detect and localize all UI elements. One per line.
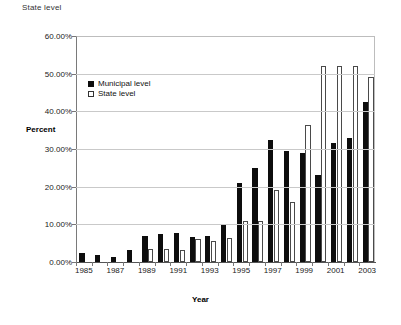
- x-tick-mark: [328, 262, 329, 266]
- bar-state: [321, 66, 326, 262]
- y-tick-label: 30.00%: [2, 145, 72, 154]
- bar-municipal: [347, 138, 352, 262]
- x-tick-mark: [218, 262, 219, 266]
- x-tick-mark: [170, 262, 171, 266]
- bar-municipal: [127, 250, 132, 262]
- bar-municipal: [158, 234, 163, 262]
- x-tick-label: 1989: [138, 266, 156, 275]
- bar-municipal: [300, 153, 305, 262]
- bar-state: [305, 125, 310, 262]
- legend-label-state: State level: [98, 89, 135, 99]
- x-tick-label: 1991: [169, 266, 187, 275]
- bar-municipal: [252, 168, 257, 262]
- y-tick-mark: [72, 74, 76, 75]
- bar-state: [368, 77, 373, 262]
- x-tick-label: 1997: [264, 266, 282, 275]
- bar-state: [353, 66, 358, 262]
- x-tick-mark: [139, 262, 140, 266]
- bar-municipal: [315, 175, 320, 262]
- bar-state: [290, 202, 295, 262]
- x-axis-line: [76, 262, 376, 263]
- bar-state: [195, 239, 200, 262]
- y-tick-mark: [72, 36, 76, 37]
- bar-municipal: [142, 236, 147, 262]
- bar-municipal: [95, 255, 100, 262]
- bar-municipal: [284, 151, 289, 262]
- corner-label: State level: [22, 3, 62, 12]
- gridline: [76, 74, 375, 75]
- x-tick-label: 2001: [327, 266, 345, 275]
- legend-swatch-municipal-icon: [88, 81, 94, 87]
- x-tick-mark: [76, 262, 77, 266]
- bar-state: [164, 249, 169, 262]
- bar-municipal: [190, 237, 195, 262]
- x-tick-mark: [92, 262, 93, 266]
- bar-municipal: [205, 236, 210, 262]
- legend-item-state: State level: [88, 89, 150, 99]
- x-tick-mark: [312, 262, 313, 266]
- x-tick-mark: [359, 262, 360, 266]
- bar-municipal: [221, 225, 226, 262]
- x-tick-mark: [249, 262, 250, 266]
- x-tick-label: 1995: [232, 266, 250, 275]
- y-tick-label: 10.00%: [2, 220, 72, 229]
- bar-municipal: [237, 183, 242, 262]
- x-tick-mark: [296, 262, 297, 266]
- bar-municipal: [363, 102, 368, 262]
- bar-state: [274, 190, 279, 262]
- bar-state: [337, 66, 342, 262]
- legend-label-municipal: Municipal level: [98, 79, 150, 89]
- x-tick-mark: [186, 262, 187, 266]
- y-tick-label: 50.00%: [2, 69, 72, 78]
- gridline: [76, 187, 375, 188]
- bar-state: [148, 249, 153, 262]
- x-tick-mark: [233, 262, 234, 266]
- bar-municipal: [79, 253, 84, 262]
- y-tick-label: 40.00%: [2, 107, 72, 116]
- x-tick-mark: [155, 262, 156, 266]
- y-tick-mark: [72, 224, 76, 225]
- bar-state: [243, 221, 248, 262]
- bar-municipal: [331, 143, 336, 262]
- y-axis-title: Percent: [26, 125, 55, 134]
- y-tick-label: 20.00%: [2, 182, 72, 191]
- bar-state: [211, 241, 216, 262]
- y-tick-label: 0.00%: [2, 258, 72, 267]
- gridline: [76, 111, 375, 112]
- x-tick-label: 1987: [106, 266, 124, 275]
- legend: Municipal level State level: [88, 79, 150, 99]
- x-tick-mark: [107, 262, 108, 266]
- bar-municipal: [268, 140, 273, 262]
- x-tick-mark: [281, 262, 282, 266]
- gridline: [76, 224, 375, 225]
- chart-container: State level 0.00%10.00%20.00%30.00%40.00…: [0, 0, 401, 325]
- bar-state: [258, 221, 263, 262]
- gridline: [76, 149, 375, 150]
- bar-state: [227, 238, 232, 262]
- y-tick-label: 60.00%: [2, 32, 72, 41]
- y-tick-mark: [72, 187, 76, 188]
- x-tick-mark: [123, 262, 124, 266]
- x-tick-mark: [265, 262, 266, 266]
- y-tick-mark: [72, 149, 76, 150]
- bar-state: [180, 250, 185, 262]
- bar-municipal: [174, 233, 179, 262]
- x-tick-label: 1999: [295, 266, 313, 275]
- legend-item-municipal: Municipal level: [88, 79, 150, 89]
- x-axis-title: Year: [0, 295, 401, 304]
- x-tick-label: 1993: [201, 266, 219, 275]
- x-tick-label: 2003: [358, 266, 376, 275]
- y-tick-mark: [72, 111, 76, 112]
- x-tick-mark: [344, 262, 345, 266]
- legend-swatch-state-icon: [88, 91, 94, 97]
- x-tick-label: 1985: [75, 266, 93, 275]
- x-tick-mark: [202, 262, 203, 266]
